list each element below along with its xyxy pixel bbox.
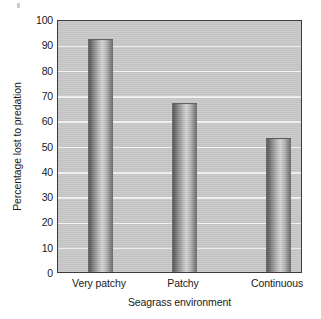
y-tick-label: 100 [24, 15, 53, 25]
y-tick-label: 70 [24, 91, 53, 101]
y-tick-label: 20 [24, 217, 53, 227]
bar [172, 103, 197, 273]
x-tick-label: Very patchy [72, 277, 126, 290]
bar [266, 138, 291, 272]
y-tick-label: 80 [24, 66, 53, 76]
x-axis-title: Seagrass environment [57, 295, 302, 309]
y-tick-label: 10 [24, 243, 53, 253]
bar [88, 39, 113, 272]
plot-area [57, 20, 302, 273]
chart-figure: Percentage lost to predation 01020304050… [0, 0, 321, 319]
x-axis-tick-labels: Very patchyPatchyContinuous [57, 277, 302, 293]
y-tick-label: 50 [24, 142, 53, 152]
scan-artifact [17, 3, 20, 8]
y-tick-label: 30 [24, 192, 53, 202]
y-axis-tick-labels: 0102030405060708090100 [24, 0, 53, 319]
y-tick-label: 60 [24, 116, 53, 126]
x-tick-label: Continuous [251, 277, 303, 290]
y-axis-title: Percentage lost to predation [9, 20, 25, 273]
y-tick-label: 90 [24, 40, 53, 50]
x-tick-label: Patchy [167, 277, 199, 290]
y-tick-label: 40 [24, 167, 53, 177]
y-tick-label: 0 [24, 268, 53, 278]
